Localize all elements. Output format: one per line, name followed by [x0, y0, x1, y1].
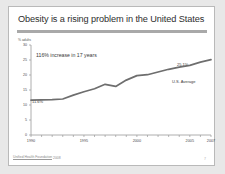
plot-svg	[9, 35, 216, 151]
x-tick-label: 2005	[179, 139, 201, 143]
y-tick-label: 30	[15, 43, 27, 47]
x-tick-label: 2000	[126, 139, 148, 143]
y-tick-label: 15	[15, 88, 27, 92]
footer-year: 2008	[53, 156, 61, 160]
slide-frame: Obesity is a rising problem in the Unite…	[8, 6, 215, 166]
y-tick-label: 10	[15, 103, 27, 107]
x-tick-label: 2007	[200, 139, 222, 143]
series-line-us-average	[31, 60, 211, 100]
footer-source-link[interactable]: Unified Health Foundation	[13, 155, 52, 160]
y-tick-label: 5	[15, 118, 27, 122]
x-tick-label: 1995	[73, 139, 95, 143]
y-tick-label: 0	[15, 133, 27, 137]
page-title: Obesity is a rising problem in the Unite…	[18, 14, 208, 24]
y-tick-label: 25	[15, 58, 27, 62]
line-chart: % adults 116% increase in 17 years 11.6%…	[9, 35, 216, 151]
axes-group	[31, 45, 211, 135]
title-divider	[17, 30, 207, 33]
x-tick-label: 1990	[20, 139, 42, 143]
footer-page-number: 7	[204, 157, 206, 161]
y-tick-label: 20	[15, 73, 27, 77]
